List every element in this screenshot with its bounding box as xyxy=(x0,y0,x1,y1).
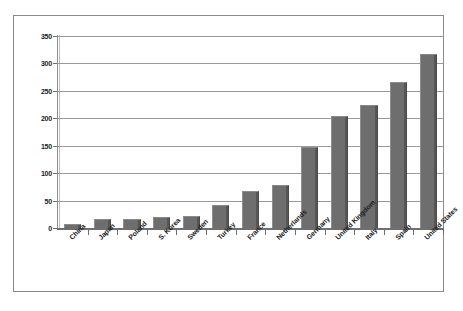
y-axis-ticks: 050100150200250300350 xyxy=(0,0,52,311)
x-tick-mark xyxy=(413,230,414,235)
gridline xyxy=(58,146,443,147)
x-tick-mark xyxy=(295,230,296,235)
bar-shadow-edge xyxy=(315,148,317,228)
bar xyxy=(331,116,348,228)
y-tick-label: 100 xyxy=(41,170,52,177)
x-tick-mark xyxy=(354,230,355,235)
plot-area xyxy=(58,36,443,228)
gridline xyxy=(58,91,443,92)
y-tick-label: 350 xyxy=(41,33,52,40)
y-tick-label: 300 xyxy=(41,60,52,67)
x-tick-mark xyxy=(117,230,118,235)
x-tick-mark xyxy=(176,230,177,235)
y-tick-label: 150 xyxy=(41,142,52,149)
x-tick-mark xyxy=(384,230,385,235)
bar xyxy=(242,191,259,228)
bar xyxy=(390,82,407,228)
y-tick-label: 200 xyxy=(41,115,52,122)
x-tick-mark xyxy=(265,230,266,235)
bar-shadow-edge xyxy=(375,106,377,228)
x-tick-mark xyxy=(88,230,89,235)
gridline xyxy=(58,173,443,174)
y-tick-label: 0 xyxy=(48,225,52,232)
bar-shadow-edge xyxy=(345,117,347,228)
y-tick-label: 250 xyxy=(41,87,52,94)
x-tick-mark xyxy=(206,230,207,235)
x-tick-mark xyxy=(325,230,326,235)
gridline xyxy=(58,63,443,64)
y-tick-label: 50 xyxy=(45,197,52,204)
bar xyxy=(272,185,289,228)
x-tick-mark xyxy=(236,230,237,235)
x-tick-mark xyxy=(443,230,444,235)
x-tick-mark xyxy=(147,230,148,235)
bar xyxy=(420,54,437,228)
bar-shadow-edge xyxy=(404,83,406,228)
gridline xyxy=(58,36,443,37)
gridline xyxy=(58,118,443,119)
bar-chart-figure: 050100150200250300350 ChinaJapanPolandS.… xyxy=(0,0,463,311)
bar-shadow-edge xyxy=(434,55,436,228)
